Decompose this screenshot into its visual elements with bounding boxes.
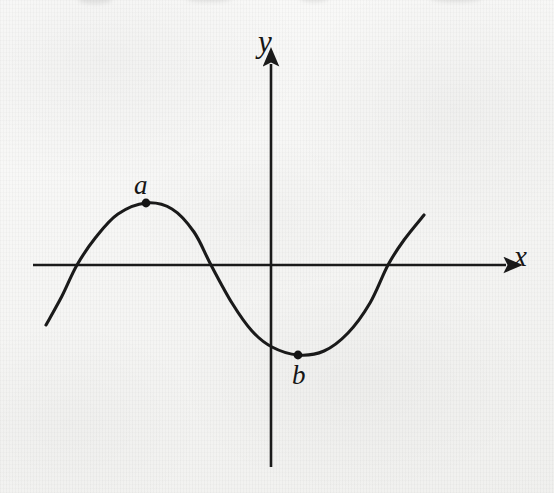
x-axis-label: x bbox=[514, 242, 527, 271]
point-b-marker bbox=[294, 351, 303, 360]
y-axis-label: y bbox=[258, 26, 272, 57]
function-curve bbox=[46, 203, 424, 355]
figure-canvas: y x a b bbox=[0, 0, 554, 493]
point-b-label: b bbox=[292, 362, 306, 389]
point-a-label: a bbox=[134, 172, 148, 199]
plot-drawing bbox=[0, 0, 554, 493]
